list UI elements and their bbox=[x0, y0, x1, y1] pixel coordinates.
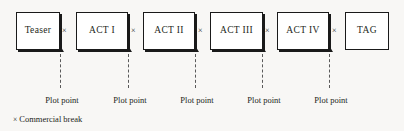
commercial-break-icon: × bbox=[62, 27, 67, 35]
commercial-break-icon: × bbox=[131, 27, 136, 35]
act-box: TAG bbox=[345, 12, 389, 50]
plot-point-connector bbox=[195, 54, 196, 88]
commercial-break-icon: × bbox=[198, 27, 203, 35]
plot-point-connector bbox=[128, 54, 129, 88]
plot-point-connector bbox=[60, 54, 61, 88]
arrow-up-icon bbox=[260, 47, 266, 52]
act-box: ACT I bbox=[76, 12, 128, 50]
act-box-label: TAG bbox=[357, 26, 377, 36]
plot-point-connector bbox=[329, 54, 330, 88]
commercial-break-icon: × bbox=[13, 115, 17, 124]
plot-point-label: Plot point bbox=[113, 96, 146, 105]
act-box: ACT III bbox=[210, 12, 263, 50]
plot-point-label: Plot point bbox=[314, 96, 347, 105]
arrow-up-icon bbox=[58, 47, 64, 52]
legend-label: Commercial break bbox=[19, 114, 82, 124]
arrow-up-icon bbox=[327, 47, 333, 52]
plot-point-label: Plot point bbox=[45, 96, 78, 105]
commercial-break-icon: × bbox=[332, 27, 337, 35]
legend: ×Commercial break bbox=[13, 115, 82, 124]
plot-point-label: Plot point bbox=[247, 96, 280, 105]
act-box-label: ACT III bbox=[220, 26, 253, 36]
plot-point-label: Plot point bbox=[180, 96, 213, 105]
act-box-label: Teaser bbox=[25, 26, 52, 36]
arrow-up-icon bbox=[193, 47, 199, 52]
act-box: ACT IV bbox=[277, 12, 329, 50]
act-box: Teaser bbox=[16, 12, 60, 50]
act-box-label: ACT II bbox=[154, 26, 184, 36]
act-box: ACT II bbox=[143, 12, 195, 50]
act-box-label: ACT I bbox=[89, 26, 115, 36]
act-structure-diagram: TeaserACT IACT IIACT IIIACT IVTAG ××××× … bbox=[0, 0, 404, 131]
commercial-break-icon: × bbox=[265, 27, 270, 35]
plot-point-connector bbox=[262, 54, 263, 88]
act-box-label: ACT IV bbox=[286, 26, 319, 36]
arrow-up-icon bbox=[126, 47, 132, 52]
